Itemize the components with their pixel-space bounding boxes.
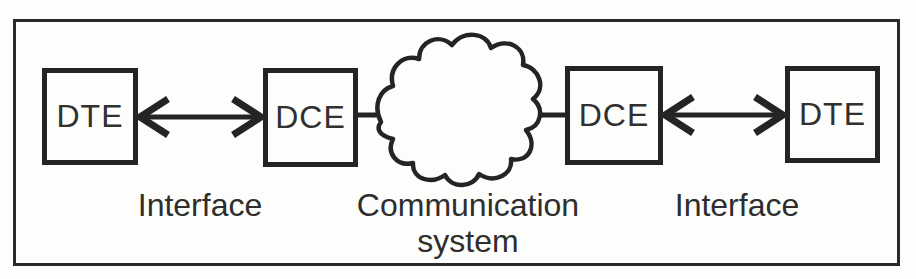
diagram-canvas: DTE DCE DCE DTE Interface Communication … [0,0,916,279]
communication-cloud-icon [377,35,540,185]
bidirectional-arrow-left-icon [140,99,261,135]
node-dte-left-label: DTE [57,98,124,135]
node-dce-right: DCE [565,66,663,165]
node-dte-right: DTE [785,66,880,163]
node-dce-right-label: DCE [579,97,650,134]
node-dte-right-label: DTE [799,96,866,133]
node-dce-left: DCE [263,68,358,167]
bidirectional-arrow-right-icon [665,97,783,133]
interface-label-right: Interface [675,187,800,223]
node-dte-left: DTE [42,68,138,165]
interface-label-left: Interface [138,187,263,223]
node-dce-left-label: DCE [275,99,346,136]
communication-system-label: Communication system [357,187,579,259]
